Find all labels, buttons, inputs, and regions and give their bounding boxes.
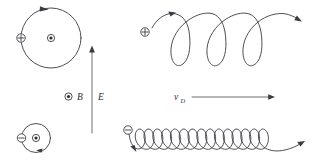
drift-velocity-subscript: D (180, 97, 186, 104)
b-field-out-of-page-icon (65, 93, 72, 100)
b-field-label-group: B E (65, 92, 104, 102)
figure-canvas: B E v D (0, 0, 317, 164)
negative-charge-icon (124, 126, 132, 134)
positive-orbit-direction-arrowhead (40, 6, 49, 11)
positive-charge-icon (17, 34, 25, 42)
positive-trochoid-end-arrowhead (294, 16, 302, 22)
negative-trochoid-curve (129, 129, 300, 151)
positive-charge-trochoid-path (141, 11, 302, 65)
physics-figure: B E v D (0, 0, 317, 164)
b-field-out-of-page-icon (47, 34, 54, 41)
drift-velocity-symbol: v (174, 92, 179, 102)
drift-arrow-head (268, 94, 275, 99)
b-field-out-of-page-icon (32, 134, 39, 141)
b-field-label: B (77, 92, 83, 102)
e-field-label: E (97, 92, 104, 102)
negative-charge-icon (17, 134, 25, 142)
negative-charge-trochoid-path (124, 126, 305, 152)
drift-velocity-label: v D (174, 92, 186, 104)
positive-trochoid-curve (152, 13, 297, 66)
positive-circular-orbit-group (17, 6, 81, 68)
e-field-arrow-icon (89, 46, 95, 134)
negative-trochoid-end-arrowhead (297, 141, 305, 147)
positive-charge-icon (141, 28, 149, 36)
negative-circular-orbit-group (17, 124, 50, 153)
drift-velocity-arrow-icon (192, 94, 275, 99)
e-field-arrow-head (89, 46, 95, 53)
